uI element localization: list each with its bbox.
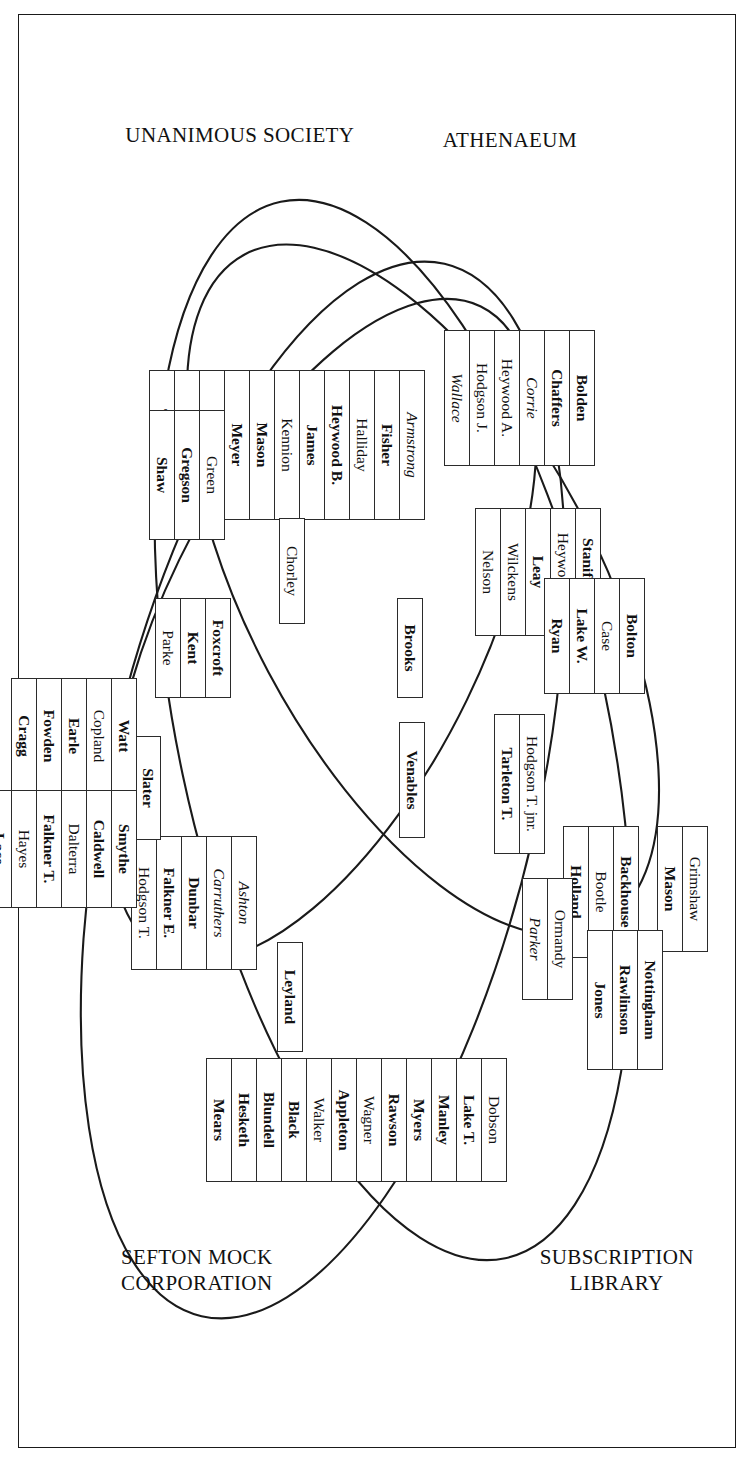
name-cell: Lake T. (456, 1059, 481, 1181)
name-cell: Heywood B. (324, 371, 349, 519)
name-cell: Grimshaw (682, 827, 707, 951)
name-cell: Lace (0, 791, 11, 907)
group-unanimous-grimshaw-visible: Grimshaw Mason (657, 826, 708, 952)
name-cell: Case (594, 579, 619, 693)
name-cell: Jones (588, 931, 612, 1069)
name-cell: Leyland (278, 943, 302, 1051)
group-sefton-only-bottom: Dobson Lake T. Manley Myers Rawson Wagne… (206, 1058, 507, 1182)
label-sefton-mock-corporation: SEFTON MOCK CORPORATION (62, 1244, 332, 1297)
name-cell: Wagner (356, 1059, 381, 1181)
name-cell: Parker (523, 879, 547, 999)
name-cell: Slater (136, 737, 160, 839)
name-cell: Carruthers (206, 837, 231, 969)
diagram-page: ATHENAEUM SUBSCRIPTION LIBRARY UNANIMOUS… (0, 0, 756, 1464)
group-centre-venables: Venables (399, 722, 425, 838)
name-cell: Shaw (150, 411, 174, 539)
name-cell: Tarleton T. (495, 715, 519, 853)
group-sefton-slater: Slater (135, 736, 161, 840)
label-unanimous-society: UNANIMOUS SOCIETY (80, 122, 400, 148)
name-cell: Appleton (331, 1059, 356, 1181)
name-cell: Gregson (174, 411, 199, 539)
name-cell: Ashton (231, 837, 256, 969)
name-cell: Blundell (256, 1059, 281, 1181)
name-cell: Cragg (12, 679, 36, 793)
group-centre-leyland: Leyland (277, 942, 303, 1052)
name-cell: Manley (431, 1059, 456, 1181)
name-cell: Venables (400, 723, 424, 837)
name-cell: Dobson (481, 1059, 506, 1181)
name-cell: Rawson (381, 1059, 406, 1181)
venn-stage: ATHENAEUM SUBSCRIPTION LIBRARY UNANIMOUS… (33, 30, 723, 1434)
name-cell: Mears (207, 1059, 231, 1181)
name-cell: Corrie (519, 331, 544, 465)
group-hodgson-tarleton-pair: Hodgson T. jnr. Tarleton T. (494, 714, 545, 854)
name-cell: Smythe (111, 791, 136, 907)
name-cell: Dunbar (181, 837, 206, 969)
group-sefton-foxcroft: Foxcroft Kent Parke (155, 598, 231, 698)
name-cell: Kennion (274, 371, 299, 519)
group-centre-brooks: Brooks (397, 598, 423, 698)
name-cell: Walker (306, 1059, 331, 1181)
name-cell: James (299, 371, 324, 519)
name-cell: Earle (61, 679, 86, 793)
group-sefton-ashton: Ashton Carruthers Dunbar Falkner E. Hodg… (131, 836, 257, 970)
name-cell: Foxcroft (205, 599, 230, 697)
group-unanimous-nottingham: Nottingham Rawlinson Jones (587, 930, 663, 1070)
name-cell: Wilckens (500, 509, 525, 635)
group-unanimous-ormandy: Ormandy Parker (522, 878, 573, 1000)
name-cell: Caldwell (86, 791, 111, 907)
name-cell: Meyer (224, 371, 249, 519)
group-sefton-smythe-row: Smythe Caldwell Dalterra Falkner T. Haye… (0, 790, 137, 908)
group-centre-chorley: Chorley (279, 518, 305, 624)
label-athenaeum: ATHENAEUM (390, 127, 630, 153)
name-cell: Fisher (374, 371, 399, 519)
name-cell: Hodgson J. (469, 331, 494, 465)
name-cell: Black (281, 1059, 306, 1181)
group-athenaeum-only-upper: Bolden Chaffers Corrie Heywood A. Hodgso… (444, 330, 595, 466)
name-cell: Lake W. (569, 579, 594, 693)
name-cell: Rawlinson (612, 931, 637, 1069)
label-subscription-library: SUBSCRIPTION LIBRARY (487, 1244, 747, 1297)
name-cell: Myers (406, 1059, 431, 1181)
group-unanimous-society-only-upper: Bolton Case Lake W. Ryan (544, 578, 645, 694)
name-cell: Nelson (476, 509, 500, 635)
name-cell: Ryan (545, 579, 569, 693)
name-cell: Falkner E. (156, 837, 181, 969)
name-cell: Brooks (398, 599, 422, 697)
name-cell: Dalterra (61, 791, 86, 907)
name-cell: Wallace (445, 331, 469, 465)
name-cell: Fowden (36, 679, 61, 793)
group-subscription-library-only: Green Gregson Shaw (149, 410, 225, 540)
name-cell: Ormandy (547, 879, 572, 999)
name-cell: Heywood A. (494, 331, 519, 465)
name-cell: Chorley (280, 519, 304, 623)
name-cell: Parke (156, 599, 180, 697)
name-cell: Hesketh (231, 1059, 256, 1181)
name-cell: Bolton (619, 579, 644, 693)
name-cell: Halliday (349, 371, 374, 519)
name-cell: Chaffers (544, 331, 569, 465)
name-cell: Bolden (569, 331, 594, 465)
name-cell: Mason (249, 371, 274, 519)
name-cell: Kent (180, 599, 205, 697)
name-cell: Falkner T. (36, 791, 61, 907)
name-cell: Hayes (11, 791, 36, 907)
name-cell: Copland (86, 679, 111, 793)
name-cell: Watt (111, 679, 136, 793)
group-sefton-watt-row: Watt Copland Earle Fowden Cragg (11, 678, 137, 794)
name-cell: Green (199, 411, 224, 539)
name-cell: Hodgson T. jnr. (519, 715, 544, 853)
name-cell: Nottingham (637, 931, 662, 1069)
name-cell: Armstrong (399, 371, 424, 519)
